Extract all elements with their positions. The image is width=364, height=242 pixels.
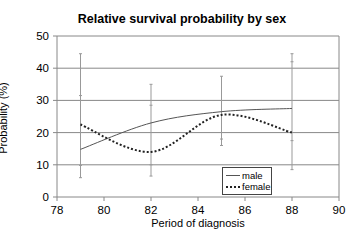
y-tick-label: 0 [43,191,49,203]
y-tick-label: 10 [36,159,49,171]
legend-label-female: female [242,181,271,192]
x-tick-label: 88 [286,204,299,216]
y-tick-label: 30 [36,94,49,106]
plot-area: 0102030405078808284868890 [0,0,364,242]
x-tick-label: 84 [192,204,205,216]
x-tick-label: 86 [239,204,252,216]
legend-item-female: female [226,181,271,192]
solid-line-swatch-icon [226,175,240,176]
x-tick-label: 82 [145,204,158,216]
series-line-female [81,115,293,152]
x-tick-label: 78 [51,204,64,216]
y-tick-label: 20 [36,127,49,139]
legend-item-male: male [226,170,263,181]
legend: male female [222,167,272,195]
y-tick-label: 40 [36,62,49,74]
legend-label-male: male [242,170,263,181]
dotted-line-swatch-icon [226,186,240,188]
x-tick-label: 90 [333,204,346,216]
series-line-male [81,108,293,149]
x-tick-label: 80 [98,204,111,216]
y-tick-label: 50 [36,30,49,42]
